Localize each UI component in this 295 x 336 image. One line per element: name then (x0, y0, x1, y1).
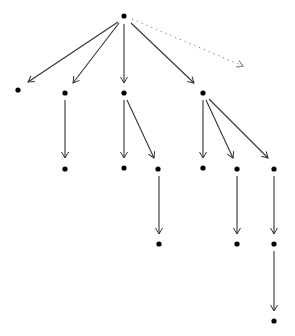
node-d1 (200, 165, 205, 170)
node-d2 (234, 166, 239, 171)
node-d2a (234, 241, 239, 246)
nodes-group (15, 13, 276, 323)
node-b (62, 90, 67, 95)
edge-c-c2 (127, 100, 154, 158)
edge-root-a (28, 22, 118, 82)
edge-d-d2 (206, 100, 233, 158)
edge-root-d (131, 23, 194, 83)
node-c2 (155, 166, 160, 171)
edges-group (28, 19, 274, 311)
node-c1 (121, 165, 126, 170)
node-c (121, 90, 126, 95)
edge-d-d3 (209, 99, 268, 158)
node-a (15, 87, 20, 92)
node-c2a (156, 241, 161, 246)
node-d3 (271, 166, 276, 171)
dotted-edge-root-ghost (132, 19, 243, 66)
tree-diagram (0, 0, 295, 336)
node-b1 (62, 166, 67, 171)
node-root (121, 13, 126, 18)
edge-root-b (73, 23, 119, 83)
node-d (200, 90, 205, 95)
node-d3a1 (271, 318, 276, 323)
node-d3a (271, 241, 276, 246)
